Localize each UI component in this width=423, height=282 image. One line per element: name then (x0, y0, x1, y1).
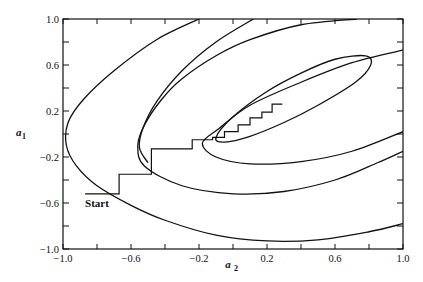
y-axis-label: a 1 (16, 126, 26, 141)
search-path (85, 104, 282, 194)
y-tick-label: −0.6 (40, 198, 59, 209)
y-tick-label: 0.6 (46, 60, 59, 71)
x-axis-label-text: a (225, 258, 231, 270)
contour-1-outer (138, 19, 403, 194)
contour-3-outermost (66, 19, 403, 241)
y-tick-label: 0.2 (46, 106, 59, 117)
x-tick-label: 1.0 (396, 253, 409, 264)
y-axis-label-subscript: 1 (22, 132, 26, 141)
x-tick-label: −0.2 (189, 253, 208, 264)
axis-ticks (63, 19, 403, 249)
y-tick-label: 1.0 (46, 14, 59, 25)
contour-lines (66, 19, 403, 241)
y-tick-label: −1.0 (40, 244, 59, 255)
plot-frame (63, 19, 403, 249)
start-label: Start (85, 197, 109, 209)
contour-2 (139, 19, 253, 163)
contour-5-inner-ellipse (216, 56, 372, 143)
annotations: Start (85, 197, 109, 209)
x-axis-label: a 2 (225, 258, 238, 273)
x-tick-label: 0.2 (260, 253, 273, 264)
y-tick-label: −0.2 (40, 152, 59, 163)
contour-4 (202, 50, 403, 164)
contour-chart: −1.0−0.6−0.20.20.61.01.00.60.2−0.2−0.6−1… (0, 0, 423, 282)
x-tick-label: −0.6 (121, 253, 140, 264)
x-axis-label-subscript: 2 (234, 264, 238, 273)
x-tick-label: 0.6 (328, 253, 341, 264)
